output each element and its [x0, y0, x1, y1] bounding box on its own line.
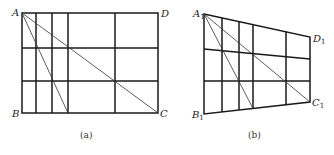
caption-a: (a) [80, 130, 92, 140]
diagonal-ac [22, 13, 158, 113]
diagonal-a1-to-bottom [204, 14, 253, 109]
quadrilateral-a1b1c1d1 [204, 14, 310, 114]
label-d1: D1 [312, 33, 326, 46]
figure-a: A B C D (a) [11, 7, 169, 140]
perspective-grid-figure: A B C D (a) A1 B1 C1 D1 (b) [0, 0, 334, 155]
label-c: C [160, 108, 168, 119]
label-a: A [11, 7, 19, 18]
caption-b: (b) [248, 130, 261, 140]
label-a1: A1 [192, 8, 205, 21]
diagonal-a-to-bottom [22, 13, 68, 113]
label-c1: C1 [312, 97, 324, 110]
label-d: D [160, 8, 169, 19]
figure-b: A1 B1 C1 D1 (b) [191, 8, 326, 140]
label-b: B [11, 108, 19, 119]
label-b1: B1 [191, 109, 204, 122]
